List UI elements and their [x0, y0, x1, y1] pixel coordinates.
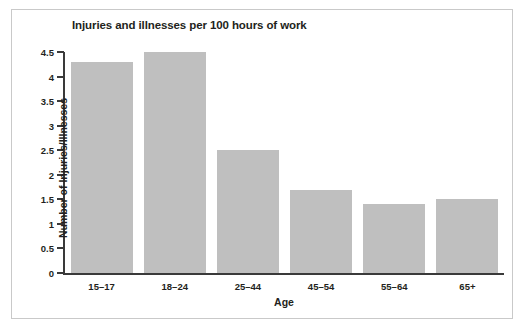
y-axis-tick-label: 4	[49, 71, 54, 82]
y-axis-tick-label: 3.5	[41, 96, 54, 107]
y-axis-tick-label: 1	[49, 218, 54, 229]
y-axis-tick-label: 4.5	[41, 47, 54, 58]
x-axis-line	[63, 273, 504, 275]
y-axis-tick-mark	[57, 272, 64, 274]
bar	[363, 204, 425, 273]
bars-container	[65, 52, 504, 273]
y-axis-tick-label: 0	[49, 268, 54, 279]
y-axis-tick-label: 2.5	[41, 145, 54, 156]
y-axis-tick-label: 1.5	[41, 194, 54, 205]
x-axis-tick-label: 18–24	[162, 281, 188, 292]
bar	[217, 150, 279, 273]
x-axis-tick-label: 15–17	[88, 281, 114, 292]
x-axis-title: Age	[64, 296, 504, 308]
x-axis-tick-label: 55–64	[381, 281, 407, 292]
chart-figure: Injuries and illnesses per 100 hours of …	[11, 9, 513, 319]
chart-title: Injuries and illnesses per 100 hours of …	[72, 19, 307, 31]
bar	[290, 190, 352, 273]
y-axis-tick-label: 2	[49, 169, 54, 180]
bar	[436, 199, 498, 273]
bar	[144, 52, 206, 273]
x-axis-tick-label: 25–44	[235, 281, 261, 292]
y-axis-tick-label: 3	[49, 120, 54, 131]
x-axis-tick-label: 65+	[459, 281, 475, 292]
x-axis-tick-label: 45–54	[308, 281, 334, 292]
bar	[71, 62, 133, 273]
y-axis-tick-label: 0.5	[41, 243, 54, 254]
y-axis-tick-mark	[57, 51, 64, 53]
